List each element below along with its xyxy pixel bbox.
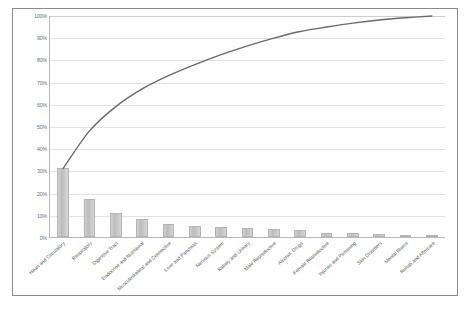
x-axis-tick: Injuries and Poisoning: [339, 239, 365, 295]
y-axis-tick-label: 90%: [37, 35, 47, 41]
chart-frame: 100%90%80%70%60%50%40%30%20%10%0% Heart …: [12, 8, 458, 296]
cumulative-line-path: [63, 16, 432, 168]
pareto-chart: 100%90%80%70%60%50%40%30%20%10%0% Heart …: [13, 9, 459, 297]
plot-area: [49, 16, 445, 238]
x-axis-tick-label: Heart and Circulatory: [28, 240, 66, 275]
y-axis-tick-label: 10%: [37, 213, 47, 219]
y-axis-tick-label: 0%: [40, 235, 47, 241]
x-axis-tick: Rehab and Aftercare: [419, 239, 445, 295]
x-axis-tick: Respiratory: [75, 239, 101, 295]
y-axis-tick-label: 50%: [37, 124, 47, 130]
x-axis: Heart and CirculatoryRespiratoryDigestiv…: [49, 239, 445, 295]
x-axis-tick: Male Reproductive: [260, 239, 286, 295]
y-axis: 100%90%80%70%60%50%40%30%20%10%0%: [21, 16, 47, 238]
x-axis-tick: Heart and Circulatory: [49, 239, 75, 295]
y-axis-tick-label: 100%: [34, 13, 47, 19]
y-axis-tick-label: 80%: [37, 57, 47, 63]
x-axis-tick: Liver and Pancreas: [181, 239, 207, 295]
y-axis-tick-label: 20%: [37, 191, 47, 197]
y-axis-tick-label: 40%: [37, 146, 47, 152]
y-axis-tick-label: 60%: [37, 102, 47, 108]
y-axis-tick-label: 30%: [37, 168, 47, 174]
x-axis-tick: Skin Disorders: [366, 239, 392, 295]
cumulative-line: [50, 16, 445, 237]
y-axis-tick-label: 70%: [37, 80, 47, 86]
